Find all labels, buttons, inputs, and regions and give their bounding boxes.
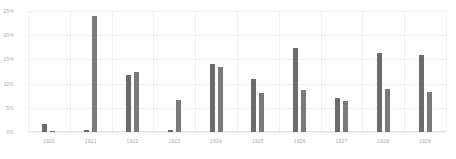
bar-group [195,11,237,132]
bar[interactable] [259,93,264,132]
bar[interactable] [92,16,97,132]
bar[interactable] [293,48,298,132]
gridline [28,132,446,133]
y-axis-tick-label: 20% [0,32,14,38]
y-axis-tick-label: 25% [0,8,14,14]
bar-group [279,11,321,132]
bar[interactable] [335,98,340,132]
y-axis-tick-label: 10% [0,81,14,87]
bar[interactable] [210,64,215,132]
x-axis-tick-label: 1920 [28,138,70,144]
bar[interactable] [419,55,424,132]
y-axis-tick-label: 5% [0,105,14,111]
bar[interactable] [126,75,131,132]
bar[interactable] [343,101,348,132]
x-axis-tick-labels: 1920192119221923192419251926192719281929 [28,138,446,144]
bar[interactable] [218,67,223,132]
bar[interactable] [50,131,55,132]
bar-group [28,11,70,132]
y-axis-tick-label: 0% [0,129,14,135]
bar-group [404,11,446,132]
x-axis-tick-label: 1926 [279,138,321,144]
y-axis-tick-label: 15% [0,56,14,62]
x-axis-tick-label: 1925 [237,138,279,144]
bar-group [321,11,363,132]
bar-group [70,11,112,132]
bar[interactable] [168,130,173,132]
x-axis-tick-label: 1928 [362,138,404,144]
bar[interactable] [84,130,89,132]
bar[interactable] [377,53,382,132]
x-axis-tick-label: 1929 [404,138,446,144]
bar[interactable] [176,100,181,132]
x-axis-tick-label: 1927 [321,138,363,144]
bar[interactable] [301,90,306,132]
bar[interactable] [251,79,256,132]
bar-group [153,11,195,132]
bar-chart: 0%5%10%15%20%25% 19201921192219231924192… [0,0,456,159]
plot-area: 0%5%10%15%20%25% [28,11,446,132]
bar[interactable] [427,92,432,132]
bar[interactable] [385,89,390,132]
x-axis-tick-label: 1923 [153,138,195,144]
x-axis-tick-label: 1922 [112,138,154,144]
bar[interactable] [134,72,139,133]
bar-group [112,11,154,132]
x-axis-tick-label: 1921 [70,138,112,144]
bar[interactable] [42,124,47,132]
vertical-gridline [446,11,447,132]
bar-groups [28,11,446,132]
bar-group [237,11,279,132]
x-axis-tick-label: 1924 [195,138,237,144]
bar-group [362,11,404,132]
